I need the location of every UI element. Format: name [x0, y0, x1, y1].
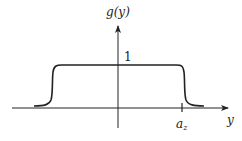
tick-label-az: az: [176, 118, 187, 132]
x-axis-label-text: y: [227, 113, 234, 127]
plateau-curve: [34, 65, 204, 106]
diagram-canvas: g(y) 1 y az: [0, 0, 242, 141]
tick-label-sub: z: [183, 123, 187, 132]
x-axis-label: y: [227, 114, 234, 126]
y-axis-label: g(y): [106, 6, 130, 18]
plot-svg: [0, 0, 242, 141]
level-one-label: 1: [124, 51, 132, 63]
